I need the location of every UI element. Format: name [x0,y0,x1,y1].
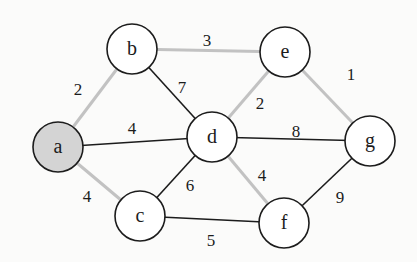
edge-weight-e-d: 2 [256,94,265,113]
edge-weight-e-g: 1 [347,65,356,84]
node-label-d: d [207,125,217,147]
edge-weight-f-g: 9 [336,188,345,207]
node-c: c [115,191,165,241]
edge-weight-a-c: 4 [83,187,92,206]
node-e: e [260,27,310,77]
node-label-c: c [136,204,145,226]
nodes-layer: abedgcf [33,24,395,248]
node-label-f: f [281,211,288,233]
edge-weight-d-c: 6 [186,176,195,195]
edge-weight-a-d: 4 [128,119,137,138]
node-label-g: g [365,129,375,152]
edge-weight-b-e: 3 [203,31,212,50]
edge-weight-b-d: 7 [178,78,187,97]
node-label-e: e [281,40,290,62]
node-label-a: a [54,135,63,157]
edge-weight-c-f: 5 [207,231,216,250]
node-label-b: b [127,37,137,59]
edge-weight-a-b: 2 [74,80,83,99]
edge-weight-d-f: 4 [258,166,267,185]
edge-weight-d-g: 8 [292,122,301,141]
node-f: f [259,198,309,248]
node-g: g [345,116,395,166]
node-d: d [187,112,237,162]
graph-diagram: 231724864495 abedgcf [0,0,417,262]
node-b: b [107,24,157,74]
node-a: a [33,122,83,172]
